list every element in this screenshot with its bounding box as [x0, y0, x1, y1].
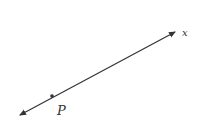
point-p-label: P	[56, 103, 66, 118]
point-p	[50, 94, 54, 98]
line-x	[20, 32, 175, 115]
geometry-diagram: P x	[0, 0, 200, 140]
line-x-label: x	[182, 27, 188, 38]
